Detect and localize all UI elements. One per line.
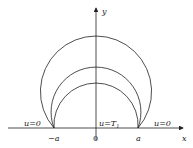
diagram-canvas: y x −a 0 a u=0 u=T1 u=0 [0, 0, 193, 148]
boundary-label-left: u=0 [24, 119, 41, 128]
tick-neg-a: −a [48, 134, 60, 143]
boundary-label-right: u=0 [154, 119, 171, 128]
boundary-label-center: u=T1 [99, 119, 119, 129]
tick-origin: 0 [93, 134, 98, 143]
tick-pos-a: a [136, 134, 141, 143]
y-axis-label: y [101, 7, 107, 16]
x-axis-label: x [182, 134, 187, 143]
